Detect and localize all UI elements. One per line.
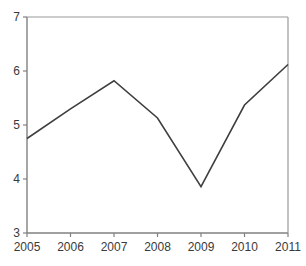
plot-area	[0, 0, 306, 266]
y-tick-label: 4	[6, 173, 20, 185]
y-tick-label: 5	[6, 119, 20, 131]
y-tick-label: 6	[6, 65, 20, 77]
x-tick-label: 2010	[225, 241, 265, 253]
y-tick-label: 7	[6, 11, 20, 23]
y-tick-label: 3	[6, 227, 20, 239]
x-tick-label: 2011	[268, 241, 306, 253]
x-tick-label: 2009	[181, 241, 221, 253]
x-tick-label: 2007	[94, 241, 134, 253]
x-tick-label: 2005	[7, 241, 47, 253]
x-tick-label: 2008	[138, 241, 178, 253]
x-tick-label: 2006	[51, 241, 91, 253]
line-chart: 76543 2005200620072008200920102011	[0, 0, 306, 266]
data-series-line	[27, 65, 288, 187]
